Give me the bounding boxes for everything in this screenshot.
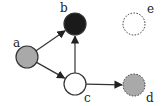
node-label-c: c (84, 91, 91, 105)
node-c (64, 73, 86, 95)
node-b (64, 13, 86, 35)
node-e (123, 13, 145, 35)
node-label-b: b (60, 1, 68, 15)
edge-c-to-d (86, 84, 122, 85)
graph-diagram: abcde (0, 0, 161, 106)
node-label-e: e (147, 2, 154, 16)
edge-a-to-b (36, 31, 65, 51)
node-d (123, 74, 145, 96)
nodes (16, 13, 145, 96)
edge-a-to-c (37, 62, 65, 78)
node-label-a: a (13, 36, 20, 50)
node-label-d: d (146, 91, 154, 105)
